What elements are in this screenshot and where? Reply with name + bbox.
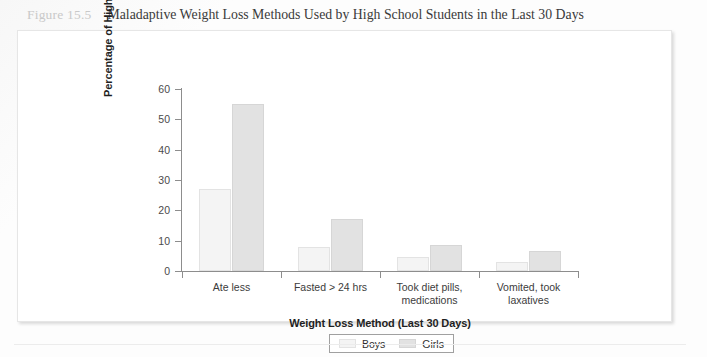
category-label-line: medications xyxy=(380,294,479,307)
x-axis-category-label: Fasted > 24 hrs xyxy=(281,281,380,294)
figure-title: Maladaptive Weight Loss Methods Used by … xyxy=(107,7,584,23)
category-label-line: Ate less xyxy=(182,281,281,294)
x-axis-tick xyxy=(380,272,381,278)
bar-boys-1 xyxy=(298,247,330,271)
x-axis-tick xyxy=(281,272,282,278)
y-axis-tick-label: 60 xyxy=(146,83,170,95)
y-axis-tick-label: 50 xyxy=(146,113,170,125)
category-label-line: Took diet pills, xyxy=(380,281,479,294)
category-label-line: Vomited, took xyxy=(479,281,578,294)
x-axis-tick xyxy=(578,272,579,278)
bar-girls-1 xyxy=(331,219,363,271)
bar-girls-3 xyxy=(529,251,561,271)
y-axis-tick xyxy=(175,119,181,120)
y-axis-tick xyxy=(175,271,181,272)
x-axis-category-label: Vomited, tooklaxatives xyxy=(479,281,578,306)
page-bottom-rule xyxy=(14,344,686,345)
x-axis-title: Weight Loss Method (Last 30 Days) xyxy=(182,317,578,329)
y-axis-tick xyxy=(175,241,181,242)
y-axis-tick xyxy=(175,180,181,181)
y-axis-tick xyxy=(175,150,181,151)
y-axis-tick-label: 0 xyxy=(146,265,170,277)
bar-girls-0 xyxy=(232,104,264,271)
y-axis-tick-label: 30 xyxy=(146,174,170,186)
bar-boys-0 xyxy=(199,189,231,271)
category-label-line: laxatives xyxy=(479,294,578,307)
y-axis-tick-label: 40 xyxy=(146,144,170,156)
y-axis-tick-label: 20 xyxy=(146,204,170,216)
category-label-line: Fasted > 24 hrs xyxy=(281,281,380,294)
x-axis-tick xyxy=(479,272,480,278)
bar-boys-2 xyxy=(397,257,429,271)
bar-girls-2 xyxy=(430,245,462,271)
y-axis-tick xyxy=(175,210,181,211)
figure-number-label: Figure 15.5 xyxy=(27,7,91,23)
figure-panel: Percentage of High School Students 60504… xyxy=(17,30,672,322)
y-axis-tick-label: 10 xyxy=(146,235,170,247)
y-axis-tick xyxy=(175,89,181,90)
bar-boys-3 xyxy=(496,262,528,271)
plot-area xyxy=(182,89,578,271)
x-axis-category-label: Took diet pills,medications xyxy=(380,281,479,306)
x-axis-tick xyxy=(182,272,183,278)
y-axis-title: Percentage of High School Students xyxy=(102,0,114,97)
x-axis-category-label: Ate less xyxy=(182,281,281,294)
